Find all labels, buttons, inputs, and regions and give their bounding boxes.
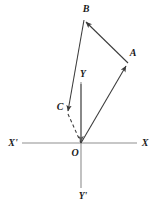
- axis-label-y-positive: Y: [80, 70, 86, 80]
- axis-label-y-negative: Y': [79, 192, 87, 202]
- point-label-B: B: [83, 4, 90, 14]
- figure-canvas: [0, 0, 159, 207]
- vector-OA: [81, 66, 126, 143]
- vector-AB: [86, 22, 128, 63]
- origin-label-O: O: [71, 148, 78, 158]
- vector-CO-dashed: [68, 114, 81, 143]
- axis-label-x-positive: X: [142, 138, 149, 148]
- point-label-A: A: [130, 48, 137, 58]
- axis-group: [22, 82, 137, 188]
- point-label-C: C: [57, 102, 64, 112]
- vector-group: [68, 20, 128, 143]
- vector-BC: [68, 20, 84, 111]
- vector-diagram-figure: B A C O X X' Y Y': [0, 0, 159, 207]
- axis-label-x-negative: X': [8, 138, 17, 148]
